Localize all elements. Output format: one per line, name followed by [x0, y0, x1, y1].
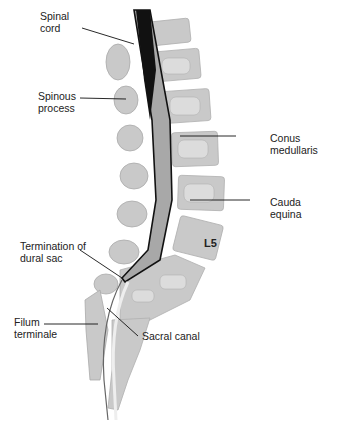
label-conus-medullaris: Conus medullaris [270, 132, 318, 156]
label-spinous-process: Spinous process [38, 90, 76, 114]
label-sacral-canal: Sacral canal [142, 330, 200, 342]
label-termination-dural-sac: Termination of dural sac [20, 240, 86, 264]
label-filum-terminale: Filum terminale [14, 316, 57, 340]
label-l5: L5 [204, 237, 217, 249]
label-cauda-equina: Cauda equina [270, 196, 302, 220]
label-spinal-cord: Spinal cord [40, 10, 69, 34]
